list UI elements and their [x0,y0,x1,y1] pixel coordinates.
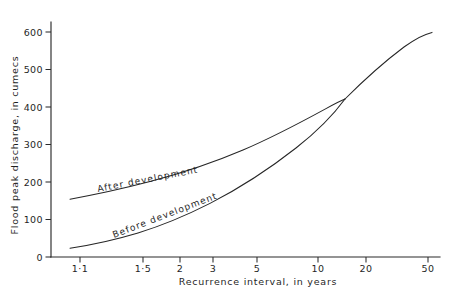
y-tick-label-500: 500 [24,64,43,75]
curve-label-before-development: Before development [111,191,219,240]
flood-frequency-chart: 600 500 400 300 200 100 0 1·1 1·5 2 3 5 … [0,0,465,295]
y-tick-label-100: 100 [24,214,43,225]
x-tick-label-1-5: 1·5 [135,263,151,274]
y-axis-title: Flood peak discharge, in cumecs [9,56,20,235]
x-tick-label-3: 3 [210,263,216,274]
y-tick-label-300: 300 [24,139,43,150]
x-axis-ticks: 1·1 1·5 2 3 5 10 20 50 [72,257,435,274]
curve-merged-upper-tail [345,32,432,99]
y-tick-label-600: 600 [24,27,43,38]
y-tick-label-0: 0 [37,252,43,263]
curve-before-development [70,99,345,248]
x-axis-title: Recurrence interval, in years [179,276,337,287]
x-tick-label-2: 2 [177,263,183,274]
x-tick-label-10: 10 [312,263,325,274]
x-tick-label-50: 50 [422,263,435,274]
x-tick-label-5: 5 [254,263,260,274]
y-tick-label-200: 200 [24,177,43,188]
x-tick-label-1-1: 1·1 [72,263,88,274]
curve-label-after-development: After development [96,165,199,194]
y-axis-ticks: 600 500 400 300 200 100 0 [24,27,51,263]
chart-canvas: 600 500 400 300 200 100 0 1·1 1·5 2 3 5 … [0,0,465,295]
y-tick-label-400: 400 [24,102,43,113]
x-tick-label-20: 20 [360,263,373,274]
